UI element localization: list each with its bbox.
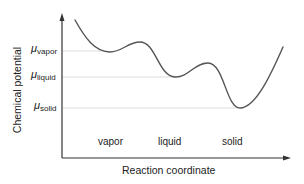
x-axis-arrow-icon: [283, 156, 291, 161]
energy-diagram: [0, 0, 304, 184]
phase-label-vapor: vapor: [98, 136, 123, 147]
phase-label-liquid: liquid: [158, 136, 181, 147]
y-axis-arrow-icon: [60, 13, 65, 21]
x-axis-label: Reaction coordinate: [122, 164, 215, 176]
mu-liquid-label: μliquid: [31, 68, 56, 82]
mu-vapor-label: μvapor: [31, 42, 57, 56]
mu-solid-label: μsolid: [34, 99, 56, 113]
y-axis-label: Chemical potential: [11, 40, 23, 140]
phase-label-solid: solid: [222, 136, 243, 147]
chemical-potential-curve: [75, 20, 283, 108]
